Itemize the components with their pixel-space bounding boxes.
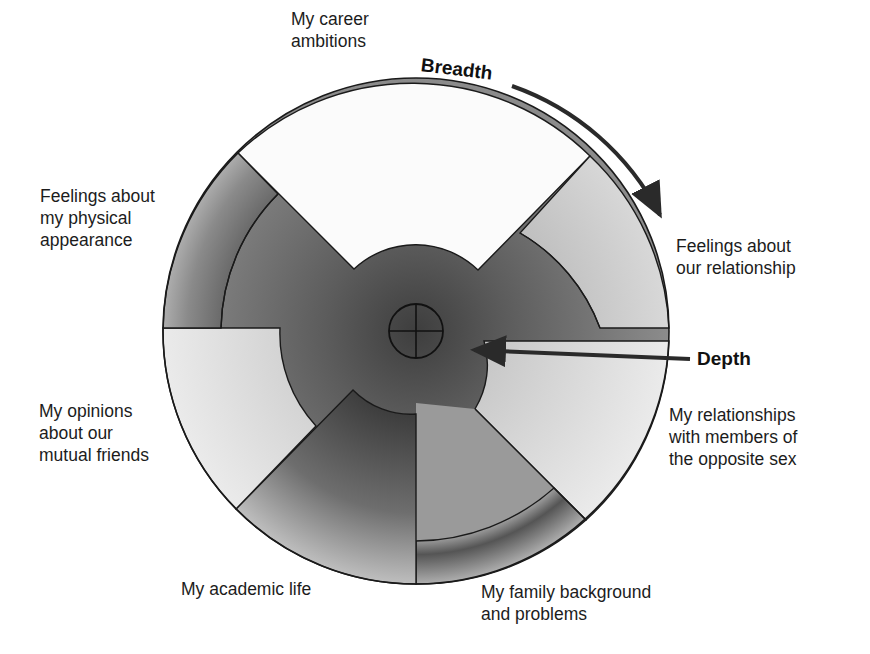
label-career: My career ambitions <box>291 8 369 52</box>
label-family: My family background and problems <box>481 581 651 625</box>
label-appearance: Feelings about my physical appearance <box>40 185 155 251</box>
label-academic: My academic life <box>181 578 311 600</box>
label-friends: My opinions about our mutual friends <box>39 400 149 466</box>
social-penetration-diagram: Breadth Depth My career ambitions Feelin… <box>0 0 870 654</box>
depth-label: Depth <box>697 348 751 370</box>
label-relationship: Feelings about our relationship <box>676 235 796 279</box>
crosshair-icon <box>389 304 443 358</box>
label-opposite-sex: My relationships with members of the opp… <box>669 404 797 470</box>
diagram-canvas <box>0 0 870 654</box>
